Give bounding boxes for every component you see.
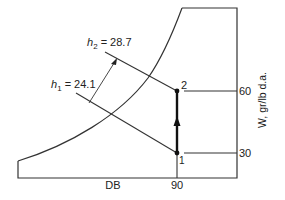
process-arrow-icon [174, 116, 181, 126]
w-tick-30: 30 [239, 147, 251, 159]
point-2-label: 2 [181, 79, 187, 91]
x-axis-label: DB [105, 179, 120, 191]
saturation-curve [18, 8, 182, 161]
psychrometric-diagram: h2 = 28.7 h1 = 24.1 2 1 60 30 90 DB W, g… [0, 0, 285, 200]
w-tick-60: 60 [239, 85, 251, 97]
diagram-svg: h2 = 28.7 h1 = 24.1 2 1 60 30 90 DB W, g… [0, 0, 285, 200]
h1-label: h1 = 24.1 [51, 78, 96, 93]
h2-label: h2 = 28.7 [87, 36, 132, 51]
point-1-label: 1 [179, 155, 185, 166]
enthalpy-line-h2 [105, 52, 177, 91]
state-point-2 [175, 89, 180, 94]
y-axis-label: W, gr/lb d.a. [256, 72, 268, 128]
db-tick-90: 90 [171, 179, 183, 191]
arrowhead-icon [111, 58, 117, 65]
